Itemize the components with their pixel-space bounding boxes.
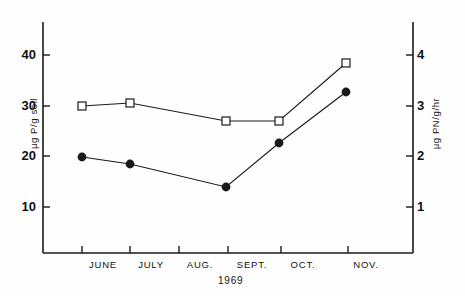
right-tick-label-2: 2 — [417, 148, 443, 163]
right-tick-label-3: 3 — [417, 98, 443, 113]
left-tick-label-40: 40 — [10, 47, 36, 62]
x-category-label-nov: NOV. — [353, 259, 379, 270]
data-point-marker — [126, 99, 134, 107]
left-tick-label-20: 20 — [10, 148, 36, 163]
chart-container: μg P/g soil μg PN/g/hr 40 30 20 10 4 3 2… — [0, 0, 465, 296]
series-p-soil-line — [82, 63, 346, 121]
x-category-label-sept: SEPT. — [237, 259, 267, 270]
x-axis-ticks — [82, 246, 348, 253]
data-point-marker — [275, 117, 283, 125]
left-tick-label-10: 10 — [10, 199, 36, 214]
data-point-marker — [275, 139, 284, 148]
data-point-marker — [78, 153, 87, 162]
left-tick-label-30: 30 — [10, 98, 36, 113]
x-category-label-july: JULY — [138, 259, 164, 270]
x-category-label-june: JUNE — [89, 259, 117, 270]
data-point-marker — [342, 88, 351, 97]
x-axis-label-year: 1969 — [218, 275, 243, 286]
data-point-marker — [222, 117, 230, 125]
x-category-label-aug: AUG. — [187, 259, 213, 270]
right-axis-ticks — [406, 55, 413, 207]
right-tick-label-1: 1 — [417, 199, 443, 214]
data-point-marker — [126, 160, 135, 169]
series-p-soil-markers — [78, 59, 350, 125]
data-point-marker — [78, 102, 86, 110]
chart-plot-area — [0, 0, 465, 296]
series-pn-rate-line — [82, 92, 346, 187]
data-point-marker — [222, 183, 231, 192]
left-axis-ticks — [43, 55, 50, 207]
x-category-label-oct: OCT. — [291, 259, 316, 270]
data-point-marker — [342, 59, 350, 67]
right-tick-label-4: 4 — [417, 47, 443, 62]
